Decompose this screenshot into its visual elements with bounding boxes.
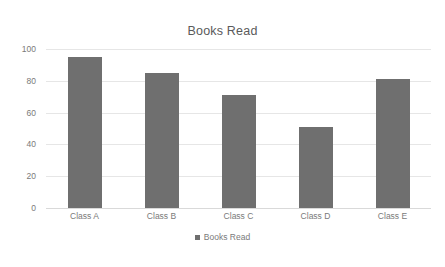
bars-layer — [46, 49, 431, 208]
y-tick-label: 60 — [27, 108, 36, 118]
x-tick-label: Class E — [378, 211, 407, 221]
y-tick-label: 20 — [27, 171, 36, 181]
chart-title: Books Read — [0, 24, 445, 38]
bar-chart: Books Read 020406080100 Class AClass BCl… — [0, 0, 445, 267]
bar — [222, 95, 256, 208]
legend-square-marker-icon — [195, 235, 200, 240]
x-tick-label: Class D — [301, 211, 331, 221]
y-tick-label: 80 — [27, 76, 36, 86]
y-tick-label: 40 — [27, 139, 36, 149]
legend-item-label: Books Read — [204, 232, 250, 242]
y-tick-label: 0 — [31, 203, 36, 213]
x-tick-label: Class B — [147, 211, 176, 221]
gridline — [46, 208, 431, 209]
x-tick-label: Class C — [224, 211, 254, 221]
bar — [68, 57, 102, 208]
bar — [145, 73, 179, 208]
chart-legend: Books Read — [0, 232, 445, 242]
bar — [299, 127, 333, 208]
x-tick-label: Class A — [70, 211, 99, 221]
x-axis: Class AClass BClass CClass DClass E — [46, 211, 431, 225]
bar — [376, 79, 410, 208]
y-tick-label: 100 — [22, 44, 36, 54]
y-axis: 020406080100 — [0, 49, 42, 208]
